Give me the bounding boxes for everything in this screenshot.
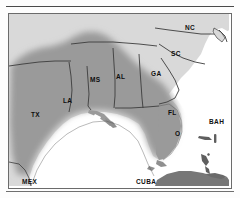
label-nc: NC (185, 25, 195, 32)
label-la: LA (63, 98, 72, 105)
label-mex: MEX (22, 179, 37, 186)
label-sc: SC (171, 51, 181, 58)
label-ga: GA (151, 71, 162, 78)
label-fl-marker: O (175, 131, 180, 138)
map-figure: NC SC GA AL MS LA TX FL O BAH MEX CUBA (0, 0, 240, 198)
label-ms: MS (90, 77, 101, 84)
label-al: AL (116, 74, 125, 81)
map-graphics (9, 14, 229, 186)
label-tx: TX (31, 112, 40, 119)
label-fl: FL (168, 110, 177, 117)
label-cuba: CUBA (136, 179, 156, 186)
label-bah: BAH (209, 119, 224, 126)
bottom-divider-rule (6, 191, 234, 192)
top-divider-rule (6, 6, 234, 7)
map-frame: NC SC GA AL MS LA TX FL O BAH MEX CUBA (8, 13, 232, 189)
